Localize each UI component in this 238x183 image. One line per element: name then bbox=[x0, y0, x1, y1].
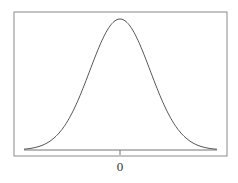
chart-svg bbox=[0, 0, 238, 183]
bell-curve bbox=[24, 19, 217, 149]
x-tick-label: 0 bbox=[117, 159, 124, 175]
plot-frame bbox=[14, 12, 227, 156]
